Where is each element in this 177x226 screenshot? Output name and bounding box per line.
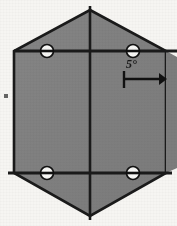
hexagon-figure-svg bbox=[0, 0, 177, 226]
pin-marker-top-right bbox=[127, 45, 140, 58]
figure-container: 5° bbox=[0, 0, 177, 226]
pin-marker-bottom-left bbox=[41, 167, 54, 180]
plate-right-extension bbox=[166, 51, 177, 173]
pin-marker-bottom-right bbox=[127, 167, 140, 180]
rotation-angle-label: 5° bbox=[126, 58, 137, 70]
edge-speck-left bbox=[4, 94, 8, 98]
pin-marker-top-left bbox=[41, 45, 54, 58]
